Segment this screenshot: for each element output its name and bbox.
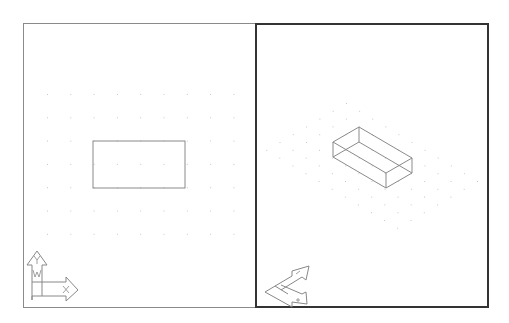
grid-dots-isometric [266, 103, 478, 229]
rectangle-object[interactable] [93, 141, 185, 188]
drawing-canvas [0, 0, 509, 323]
ucs-icon-isometric [265, 266, 309, 307]
ucs-icon-world [27, 251, 78, 301]
box-wireframe-object[interactable] [333, 127, 412, 188]
grid-dots-left [47, 94, 234, 235]
